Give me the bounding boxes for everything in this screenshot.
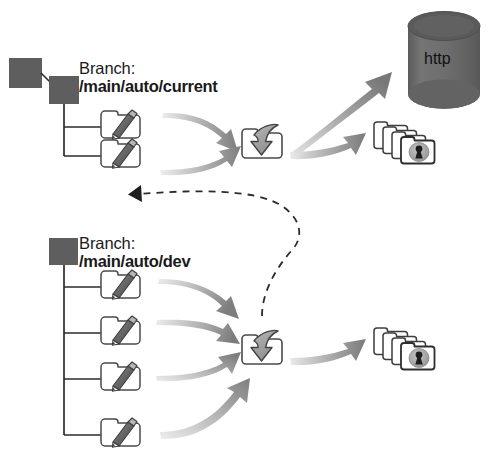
- folder-pencil-icon[interactable]: [101, 110, 140, 139]
- branch-label-title: Branch:: [79, 60, 218, 78]
- flow-arrow: [160, 378, 250, 439]
- http-server-label: http: [424, 50, 451, 68]
- branch-label-current: Branch: /main/auto/current: [79, 60, 218, 96]
- branch-label-path: /main/auto/dev: [79, 253, 190, 271]
- import-tray-icon[interactable]: [242, 330, 282, 364]
- dev-branch-node[interactable]: [49, 238, 78, 265]
- dashed-arrowhead: [128, 185, 142, 202]
- diagram-canvas: Branch: /main/auto/current Branch: /main…: [0, 0, 488, 455]
- folder-pencil-icon[interactable]: [101, 316, 140, 345]
- flow-arrow: [160, 146, 241, 175]
- branch-label-title: Branch:: [79, 235, 190, 253]
- folder-pencil-icon[interactable]: [101, 418, 140, 447]
- parent-branch-node[interactable]: [9, 58, 42, 88]
- folder-pencil-icon[interactable]: [101, 270, 140, 299]
- flow-arrow: [156, 352, 241, 381]
- branch-label-path: /main/auto/current: [79, 78, 218, 96]
- diagram-svg: [0, 0, 488, 455]
- flow-arrow-to-secure-folders: [290, 339, 366, 365]
- secure-folder-stack-icon[interactable]: [374, 122, 435, 164]
- secure-folder-stack-icon[interactable]: [374, 328, 435, 370]
- flow-arrow: [158, 279, 239, 319]
- flow-arrow: [156, 320, 240, 344]
- current-branch-node[interactable]: [49, 76, 79, 104]
- flow-arrow: [162, 113, 238, 152]
- import-tray-icon[interactable]: [242, 124, 282, 158]
- folder-pencil-icon[interactable]: [101, 362, 140, 391]
- branch-label-dev: Branch: /main/auto/dev: [79, 235, 190, 271]
- folder-pencil-icon[interactable]: [101, 139, 140, 168]
